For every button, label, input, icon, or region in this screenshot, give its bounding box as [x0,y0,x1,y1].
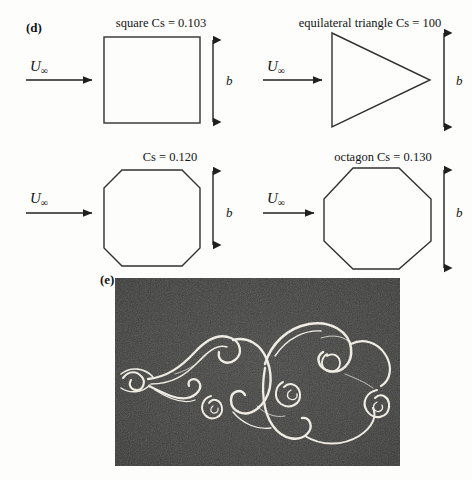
dimension-label-b-octagon: b [456,205,463,221]
shape-octagon [324,168,431,269]
panel-label-d: (d) [26,20,42,36]
dimension-label-b-square: b [226,73,233,89]
flow-velocity-symbol: U [30,190,41,206]
caption-equilateral-triangle: equilateral triangle Cs = 100 [285,16,455,31]
flow-velocity-subscript: ∞ [41,65,48,76]
shape-square [104,37,200,123]
flow-velocity-subscript: ∞ [278,65,285,76]
flow-velocity-symbol: U [30,58,41,74]
caption-chamfered-square: Cs = 0.120 [120,150,220,165]
vortex-street-image [115,278,400,466]
shape-chamfered-square [104,170,200,266]
flow-velocity-subscript: ∞ [278,197,285,208]
caption-square: square Cs = 0.103 [102,16,220,31]
flow-velocity-label-triangle: U∞ [267,58,285,76]
flow-velocity-label-square: U∞ [30,58,48,76]
caption-octagon: octagon Cs = 0.130 [318,150,448,165]
flow-velocity-symbol: U [267,190,278,206]
flow-velocity-label-chamfered-square: U∞ [30,190,48,208]
vortex-street-photograph [115,278,400,466]
dimension-label-b-chamfered-square: b [226,205,233,221]
flow-velocity-label-octagon: U∞ [267,190,285,208]
figure-page: (d) square Cs = 0.103 equilateral triang… [0,0,472,480]
flow-velocity-subscript: ∞ [41,197,48,208]
flow-velocity-symbol: U [267,58,278,74]
dimension-label-b-triangle: b [456,73,463,89]
shape-equilateral-triangle [332,33,430,127]
panel-label-e: (e) [100,272,114,288]
